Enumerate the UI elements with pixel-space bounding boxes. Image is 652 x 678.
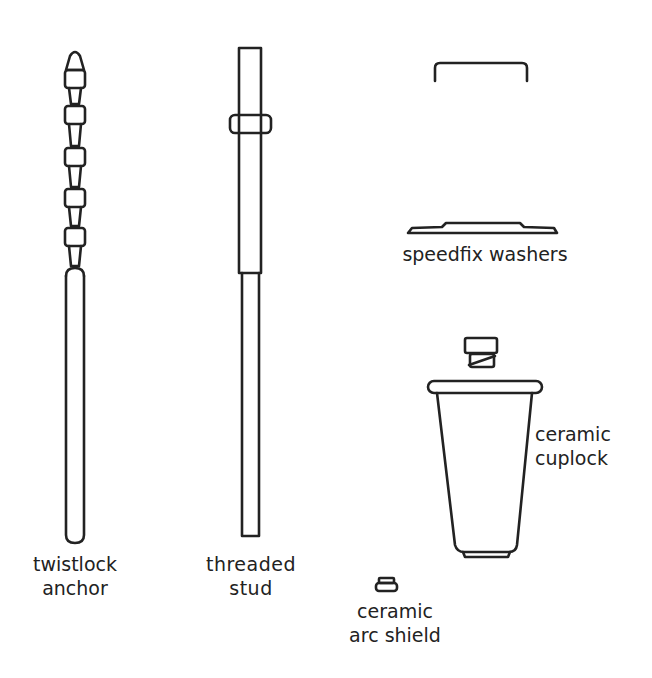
ceramic-arc-shield-label: ceramic arc shield	[335, 599, 455, 647]
label-line: twistlock	[10, 552, 140, 576]
label-line: threaded	[186, 552, 316, 576]
label-line: speedfix washers	[390, 242, 580, 266]
ceramic-cuplock-drawing	[428, 338, 542, 557]
twistlock-anchor-drawing	[65, 52, 85, 543]
ceramic-cuplock-label: ceramic cuplock	[535, 422, 630, 470]
threaded-stud-drawing	[230, 48, 271, 536]
label-line: ceramic	[335, 599, 455, 623]
label-line: arc shield	[335, 623, 455, 647]
label-line: stud	[186, 576, 316, 600]
speedfix-washers-drawing	[408, 63, 557, 233]
label-line: cuplock	[535, 446, 630, 470]
threaded-stud-label: threaded stud	[186, 552, 316, 600]
ceramic-arc-shield-drawing	[376, 578, 397, 591]
twistlock-anchor-label: twistlock anchor	[10, 552, 140, 600]
speedfix-washers-label: speedfix washers	[390, 242, 580, 266]
label-line: ceramic	[535, 422, 630, 446]
label-line: anchor	[10, 576, 140, 600]
